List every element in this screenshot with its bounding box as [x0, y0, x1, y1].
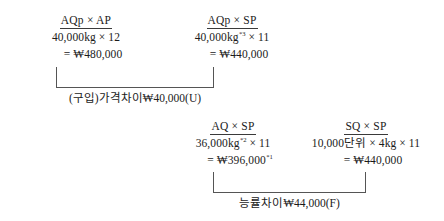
column-aqp-ap: AQp × AP 40,000kg × 12 = ₩480,000 [26, 10, 146, 63]
column-line1-aq-sp-rate: × 11 [247, 137, 271, 149]
column-line2-aqp-ap: = ₩480,000 [26, 46, 146, 63]
column-line2-aqp-sp: = ₩440,000 [170, 46, 294, 63]
column-header-aq-sp: AQ × SP [210, 120, 255, 135]
footnote-marker-1: *1 [266, 153, 273, 160]
variance-analysis-diagram: AQp × AP 40,000kg × 12 = ₩480,000 AQp × … [0, 0, 444, 221]
bracket-efficiency-variance [213, 172, 366, 193]
bracket-price-variance [56, 67, 214, 88]
column-line1-aqp-sp-rate: × 11 [246, 31, 270, 43]
column-sq-sp: SQ × SP 10,000단위 × 4kg × 11 = ₩440,000 [296, 116, 436, 169]
column-header-aqp-ap: AQp × AP [60, 14, 112, 29]
column-line1-sq-sp: 10,000단위 × 4kg × 11 [296, 135, 436, 152]
column-line1-aq-sp-value: 36,000kg [196, 137, 240, 149]
column-aqp-sp: AQp × SP 40,000kg*3 × 11 = ₩440,000 [170, 10, 294, 63]
price-variance-label: (구입)가격차이₩40,000(U) [58, 91, 212, 105]
column-line1-aqp-sp: 40,000kg*3 × 11 [170, 29, 294, 46]
column-line1-aqp-sp-value: 40,000kg [195, 31, 239, 43]
footnote-marker-2: *2 [240, 136, 247, 143]
footnote-marker-3: *3 [239, 30, 246, 37]
column-line2-sq-sp: = ₩440,000 [296, 152, 436, 169]
efficiency-variance-label: 능률차이₩44,000(F) [215, 196, 364, 210]
column-header-aqp-sp: AQp × SP [207, 14, 258, 29]
column-aq-sp: AQ × SP 36,000kg*2 × 11 = ₩396,000*1 [172, 116, 294, 169]
column-header-sq-sp: SQ × SP [344, 120, 387, 135]
column-line1-aqp-ap: 40,000kg × 12 [26, 29, 146, 46]
column-line2-aq-sp: = ₩396,000*1 [172, 152, 294, 169]
column-line2-aq-sp-value: = ₩396,000 [207, 154, 266, 166]
column-line1-aq-sp: 36,000kg*2 × 11 [172, 135, 294, 152]
